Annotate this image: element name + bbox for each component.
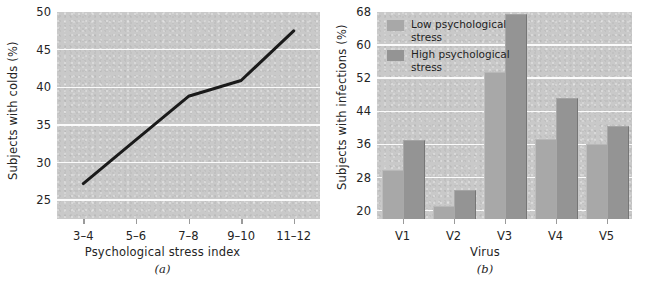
y-tick-label-b: 20 — [356, 204, 371, 218]
y-tick-label-a: 35 — [36, 118, 51, 132]
plot-area-b: Low psychological stressHigh psychologic… — [377, 12, 632, 219]
x-tick-mark-b — [454, 219, 456, 224]
bar-v2-high — [454, 190, 476, 219]
y-tick-label-a: 30 — [36, 156, 51, 170]
x-tick-mark-a — [136, 219, 138, 224]
x-tick-label-b: V3 — [497, 229, 512, 243]
x-tick-mark-a — [83, 219, 85, 224]
y-tick-label-a: 40 — [36, 80, 51, 94]
y-tick-label-a: 25 — [36, 193, 51, 207]
legend-swatch-icon — [387, 50, 404, 61]
x-tick-label-a: 5–6 — [126, 229, 146, 243]
bar-v3-low — [484, 72, 506, 219]
x-axis-label-a: Psychological stress index — [0, 245, 325, 259]
legend-item-low-stress: Low psychological stress — [387, 18, 519, 43]
x-tick-label-b: V4 — [548, 229, 563, 243]
panel-caption-a: (a) — [0, 262, 325, 276]
x-tick-mark-b — [556, 219, 558, 224]
x-tick-mark-a — [294, 219, 296, 224]
x-tick-label-a: 7–8 — [178, 229, 198, 243]
legend-item-high-stress: High psychological stress — [387, 48, 519, 73]
bar-v5-low — [586, 144, 608, 219]
x-tick-mark-b — [505, 219, 507, 224]
legend-b: Low psychological stressHigh psychologic… — [387, 18, 519, 78]
figure-container: Subjects with colds (%) 253035404550 3–4… — [0, 0, 645, 282]
legend-label: High psychological stress — [411, 48, 519, 73]
x-tick-label-b: V1 — [395, 229, 410, 243]
bar-v2-low — [433, 206, 455, 219]
y-tick-label-b: 52 — [356, 71, 371, 85]
y-tick-label-b: 68 — [356, 5, 371, 19]
bar-v1-low — [382, 170, 404, 219]
line-series-colds — [57, 12, 320, 219]
x-tick-mark-b — [403, 219, 405, 224]
y-axis-label-a: Subjects with colds (%) — [6, 50, 20, 180]
x-axis-label-b: Virus — [325, 245, 645, 259]
y-tick-label-b: 28 — [356, 171, 371, 185]
plot-area-a — [57, 12, 320, 219]
x-tick-label-a: 9–10 — [227, 229, 255, 243]
panel-caption-b: (b) — [325, 262, 645, 276]
legend-label: Low psychological stress — [411, 18, 519, 43]
chart-panel-a: Subjects with colds (%) 253035404550 3–4… — [0, 0, 325, 282]
y-tick-label-a: 45 — [36, 43, 51, 57]
x-tick-label-a: 11–12 — [276, 229, 311, 243]
legend-swatch-icon — [387, 20, 404, 31]
y-tick-label-b: 44 — [356, 104, 371, 118]
y-axis-label-b: Subjects with infections (%) — [335, 40, 349, 190]
y-tick-label-a: 50 — [36, 5, 51, 19]
y-tick-label-b: 60 — [356, 38, 371, 52]
bar-v1-high — [403, 140, 425, 219]
x-tick-label-b: V5 — [599, 229, 614, 243]
x-tick-label-a: 3–4 — [73, 229, 93, 243]
x-tick-mark-a — [241, 219, 243, 224]
y-tick-label-b: 36 — [356, 137, 371, 151]
chart-panel-b: Subjects with infections (%) 20283644526… — [325, 0, 645, 282]
bar-v4-low — [535, 139, 557, 219]
bar-v4-high — [556, 98, 578, 219]
bar-v5-high — [607, 126, 629, 219]
x-tick-label-b: V2 — [446, 229, 461, 243]
x-tick-mark-a — [189, 219, 191, 224]
x-tick-mark-b — [607, 219, 609, 224]
